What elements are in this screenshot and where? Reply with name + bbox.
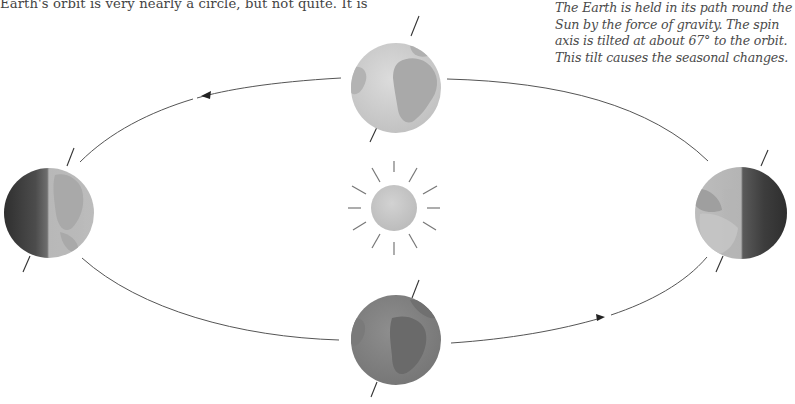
orbit-arc-top-left-2: [80, 99, 193, 162]
direction-arrow-icon: [596, 314, 605, 321]
earth-right: [695, 150, 787, 272]
spin-axis: [716, 256, 723, 272]
spin-axis: [411, 16, 419, 36]
orbit-arc-bottom-left: [82, 258, 339, 340]
earth-top: [349, 16, 441, 142]
sun-disc: [371, 185, 417, 231]
orbit-arc-bottom-right: [451, 318, 601, 343]
spin-axis: [412, 280, 419, 298]
orbit-arc-top-left: [197, 78, 341, 98]
spin-axis: [67, 148, 74, 166]
orbit-arc-top-right: [447, 79, 708, 161]
earth-bottom: [350, 280, 441, 397]
spin-axis: [371, 382, 377, 397]
spin-axis: [23, 256, 30, 272]
spin-axis: [761, 150, 768, 166]
sun: [348, 161, 440, 255]
orbit-arc-bottom-right-2: [611, 257, 707, 315]
earth-left: [4, 148, 94, 272]
direction-arrow-icon: [201, 91, 211, 99]
